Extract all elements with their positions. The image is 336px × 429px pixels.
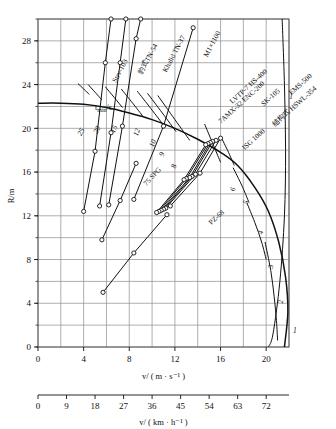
time-curve-label: 1 [293, 326, 297, 335]
y-tick-label: 0 [27, 342, 32, 352]
data-point-marker [103, 61, 107, 65]
data-point-marker [165, 213, 169, 217]
data-point-marker [134, 161, 138, 165]
data-point-marker [124, 17, 128, 21]
x-tick-label: 4 [81, 354, 86, 364]
data-point-marker [218, 136, 222, 140]
data-point-marker [118, 198, 122, 202]
x-axis-title: v/ ( m · s⁻¹ ) [142, 371, 185, 381]
y-tick-label: 12 [22, 211, 31, 221]
data-point-marker [98, 204, 102, 208]
data-point-marker [204, 143, 208, 147]
x-tick-label-kmh: 27 [119, 401, 129, 411]
x-tick-label: 20 [262, 354, 272, 364]
y-axis-title: R/m [6, 188, 16, 203]
data-point-marker [107, 203, 111, 207]
data-point-marker [198, 171, 202, 175]
data-point-marker [132, 251, 136, 255]
x-tick-label-kmh: 45 [176, 401, 186, 411]
y-tick-label: 28 [22, 36, 32, 46]
x-tick-label: 12 [170, 354, 179, 364]
y-tick-label: 16 [22, 167, 32, 177]
data-point-marker [161, 124, 165, 128]
data-point-marker [100, 238, 104, 242]
y-tick-label: 4 [27, 298, 32, 308]
data-point-marker [120, 124, 124, 128]
time-family-units: /s [107, 103, 112, 112]
data-point-marker [168, 204, 172, 208]
data-point-marker [155, 210, 159, 214]
y-tick-label: 20 [22, 124, 32, 134]
data-point-marker [109, 17, 113, 21]
y-tick-label: 24 [22, 80, 32, 90]
data-point-marker [82, 209, 86, 213]
x-tick-label-kmh: 9 [64, 401, 69, 411]
data-point-marker [93, 149, 97, 153]
x-tick-label: 0 [36, 354, 41, 364]
x-tick-label: 16 [216, 354, 226, 364]
data-point-marker [191, 26, 195, 30]
chart-canvas: 048121620 0918273645546372 0481216202428… [0, 0, 336, 429]
data-point-marker [182, 178, 186, 182]
data-point-marker [132, 197, 136, 201]
x-tick-label-kmh: 36 [148, 401, 158, 411]
data-point-marker [134, 37, 138, 41]
x-tick-label: 8 [127, 354, 132, 364]
x-tick-label-kmh: 63 [233, 401, 243, 411]
x-tick-label-kmh: 18 [91, 401, 101, 411]
time-curve-label: 1 [289, 92, 293, 101]
x-axis-title-kmh: v/ ( km · h⁻¹ ) [139, 417, 188, 427]
y-tick-label: 8 [27, 255, 32, 265]
chart-figure: 048121620 0918273645546372 0481216202428… [0, 0, 336, 429]
data-point-marker [139, 17, 143, 21]
x-tick-label-kmh: 0 [36, 401, 41, 411]
x-tick-label-kmh: 72 [262, 401, 271, 411]
data-point-marker [101, 290, 105, 294]
x-tick-label-kmh: 54 [205, 401, 215, 411]
time-family-subscript: min [97, 107, 106, 113]
